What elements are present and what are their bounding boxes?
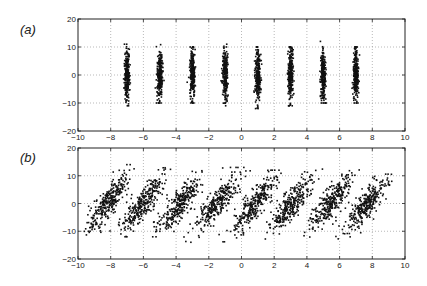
svg-text:10: 10 bbox=[401, 261, 410, 270]
svg-text:0: 0 bbox=[72, 71, 77, 80]
svg-text:−4: −4 bbox=[172, 261, 182, 270]
scatter-plot-b: −10−8−6−4−20246810−20−1001020 bbox=[62, 144, 410, 270]
svg-text:−10: −10 bbox=[62, 227, 76, 236]
svg-text:−8: −8 bbox=[106, 133, 116, 142]
svg-text:−20: −20 bbox=[62, 255, 76, 264]
svg-text:10: 10 bbox=[67, 43, 76, 52]
svg-text:8: 8 bbox=[370, 261, 375, 270]
chart-canvas: −10−8−6−4−20246810−20−1001020 −10−8−6−4−… bbox=[0, 0, 427, 286]
svg-text:0: 0 bbox=[239, 133, 244, 142]
svg-text:20: 20 bbox=[67, 15, 76, 24]
svg-text:10: 10 bbox=[67, 172, 76, 181]
svg-text:0: 0 bbox=[239, 261, 244, 270]
svg-text:−20: −20 bbox=[62, 127, 76, 136]
svg-text:6: 6 bbox=[337, 261, 342, 270]
svg-text:−6: −6 bbox=[139, 261, 149, 270]
svg-text:4: 4 bbox=[305, 261, 310, 270]
svg-text:20: 20 bbox=[67, 144, 76, 153]
svg-text:−2: −2 bbox=[204, 261, 214, 270]
svg-text:2: 2 bbox=[272, 261, 277, 270]
svg-text:−2: −2 bbox=[204, 133, 214, 142]
svg-text:8: 8 bbox=[370, 133, 375, 142]
svg-text:10: 10 bbox=[401, 133, 410, 142]
svg-text:0: 0 bbox=[72, 200, 77, 209]
scatter-plot-a: −10−8−6−4−20246810−20−1001020 bbox=[62, 15, 410, 142]
svg-text:2: 2 bbox=[272, 133, 277, 142]
svg-text:−8: −8 bbox=[106, 261, 116, 270]
svg-text:−6: −6 bbox=[139, 133, 149, 142]
svg-text:6: 6 bbox=[337, 133, 342, 142]
svg-text:4: 4 bbox=[305, 133, 310, 142]
svg-text:−4: −4 bbox=[172, 133, 182, 142]
svg-text:−10: −10 bbox=[62, 99, 76, 108]
